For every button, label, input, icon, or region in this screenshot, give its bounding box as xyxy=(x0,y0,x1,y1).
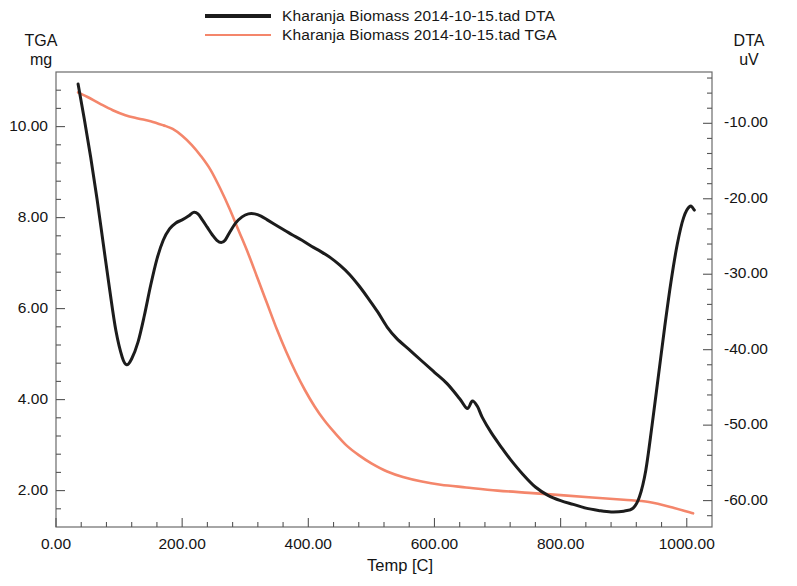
tick-label: 6.00 xyxy=(0,299,48,317)
right-axis-title-line2: uV xyxy=(714,50,784,69)
left-axis-title-line2: mg xyxy=(8,50,74,69)
tick-label: -10.00 xyxy=(724,113,797,131)
legend-swatch-dta-icon xyxy=(205,14,271,18)
chart-container: Kharanja Biomass 2014-10-15.tad DTA Khar… xyxy=(0,0,797,586)
legend-swatch-tga-icon xyxy=(205,34,271,36)
tick-label: 1000.00 xyxy=(642,535,732,553)
chart-legend: Kharanja Biomass 2014-10-15.tad DTA Khar… xyxy=(205,6,625,44)
tick-label: 4.00 xyxy=(0,390,48,408)
tick-label: 800.00 xyxy=(516,535,606,553)
left-axis-title-line1: TGA xyxy=(8,31,74,50)
tick-label: 10.00 xyxy=(0,117,48,135)
tick-label: -20.00 xyxy=(724,189,797,207)
left-axis-title: TGA mg xyxy=(8,31,74,69)
legend-label-tga: Kharanja Biomass 2014-10-15.tad TGA xyxy=(282,26,557,44)
tick-label: 200.00 xyxy=(137,535,227,553)
tick-label: -40.00 xyxy=(724,340,797,358)
legend-label-dta: Kharanja Biomass 2014-10-15.tad DTA xyxy=(282,7,555,25)
tick-label: 600.00 xyxy=(389,535,479,553)
legend-item-tga: Kharanja Biomass 2014-10-15.tad TGA xyxy=(205,25,625,44)
tick-label: -30.00 xyxy=(724,264,797,282)
tick-label: -60.00 xyxy=(724,491,797,509)
tick-label: 0.00 xyxy=(11,535,101,553)
series-line-tga xyxy=(78,92,693,513)
legend-item-dta: Kharanja Biomass 2014-10-15.tad DTA xyxy=(205,6,625,25)
tick-label: 2.00 xyxy=(0,481,48,499)
plot-frame xyxy=(56,72,712,527)
data-series-layer xyxy=(78,84,694,513)
plot-area xyxy=(0,0,797,586)
tick-label: 8.00 xyxy=(0,208,48,226)
x-axis-title: Temp [C] xyxy=(300,556,500,575)
series-line-dta xyxy=(78,84,694,512)
axis-ticks xyxy=(56,78,712,527)
tick-label: 400.00 xyxy=(263,535,353,553)
right-axis-title-line1: DTA xyxy=(714,31,784,50)
tick-label: -50.00 xyxy=(724,415,797,433)
right-axis-title: DTA uV xyxy=(714,31,784,69)
